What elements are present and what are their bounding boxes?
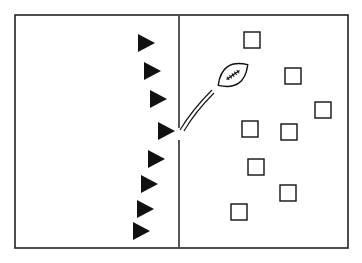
background: [0, 0, 362, 263]
play-diagram: [0, 0, 362, 263]
